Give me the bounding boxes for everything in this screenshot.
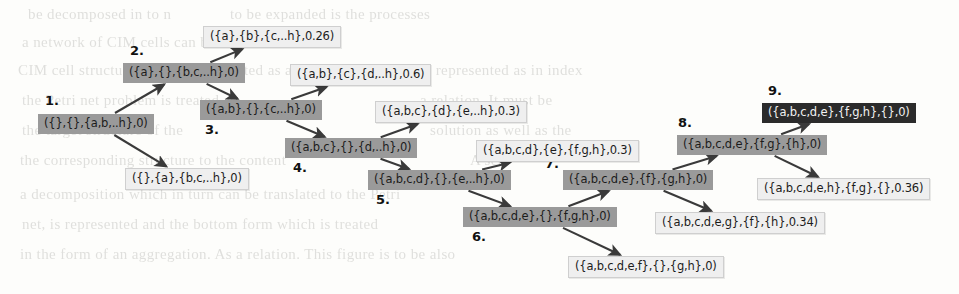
tree-edge-arrow [210, 49, 242, 62]
tree-edge-arrow [381, 124, 418, 137]
bleed-text-line: net, is represented and the bottom form … [22, 216, 378, 233]
node-number-label: 2. [130, 43, 144, 58]
tree-edge-arrow [664, 191, 712, 211]
tree-edge-arrow [115, 85, 164, 114]
bleed-text-line: the corresponding structure to the conte… [20, 152, 286, 169]
tree-edge-arrow [563, 228, 620, 255]
figure-canvas: be decomposed in to nto be expanded is t… [0, 0, 959, 294]
tree-node[interactable]: ({a},{},{b,c,..h},0) [123, 63, 245, 83]
tree-node[interactable]: ({a,b,c},{},{d,..h},0) [285, 138, 417, 158]
bleed-text-line: in the form of an aggregation. As a rela… [20, 246, 456, 263]
frontier-node[interactable]: ({a,b,c},{d},{e,..h},0.3) [375, 101, 527, 123]
bleed-text-line: to be expanded is the processes [230, 6, 430, 23]
node-number-label: 5. [376, 192, 390, 207]
frontier-node[interactable]: ({a},{b},{c,..h},0.26) [203, 26, 341, 48]
tree-edge-arrow [568, 191, 608, 206]
node-number-label: 1. [45, 93, 59, 108]
bleed-text-line: solution as well as the [430, 122, 572, 139]
node-number-label: 6. [472, 229, 486, 244]
tree-edge-arrow [781, 124, 809, 134]
tree-edge-arrow [482, 163, 510, 170]
frontier-node[interactable]: ({a,b,c,d},{e},{f,g,h},0.3) [476, 140, 639, 162]
frontier-node[interactable]: ({a,b,c,d,e,h},{f,g},{},0.36) [757, 178, 930, 200]
tree-edge-arrow [469, 191, 511, 206]
tree-edge-arrow [673, 156, 717, 170]
frontier-node[interactable]: ({a,b,c,d,e,f},{},{g,h},0) [568, 256, 724, 278]
tree-edge-arrow [114, 135, 166, 166]
frontier-node[interactable]: ({a,b,c,d,e,g},{f},{h},0.34) [655, 212, 825, 234]
tree-edge-arrow [775, 156, 818, 177]
tree-node[interactable]: ({a,b,c,d},{},{e,..h},0) [368, 170, 511, 190]
tree-edge-arrow [207, 84, 238, 99]
frontier-node[interactable]: ({a,b},{c},{d,..h},0.6) [290, 64, 431, 86]
frontier-node[interactable]: ({},{a},{b,c,..h},0) [125, 168, 249, 190]
tree-node[interactable]: ({a,b,c,d,e},{f,g},{h},0) [677, 135, 827, 155]
node-number-label: 8. [678, 115, 692, 130]
bleed-text-line: be decomposed in to n [28, 6, 171, 23]
tree-node[interactable]: ({},{},{a,b,..h},0) [38, 114, 154, 134]
node-number-label: 3. [205, 122, 219, 137]
tree-edge-arrow [287, 121, 325, 137]
tree-node[interactable]: ({a,b,c,d,e},{f},{g,h},0) [563, 170, 713, 190]
tree-edge-arrow [381, 159, 410, 169]
tree-node[interactable]: ({a,b,c,d,e},{},{f,g,h},0) [463, 207, 617, 227]
node-number-label: 4. [293, 160, 307, 175]
tree-edge-arrow [291, 87, 326, 99]
node-number-label: 9. [768, 83, 782, 98]
tree-node[interactable]: ({a,b},{},{c,..h},0) [200, 100, 322, 120]
tree-node[interactable]: ({a,b,c,d,e},{f,g,h},{},0) [762, 103, 916, 123]
